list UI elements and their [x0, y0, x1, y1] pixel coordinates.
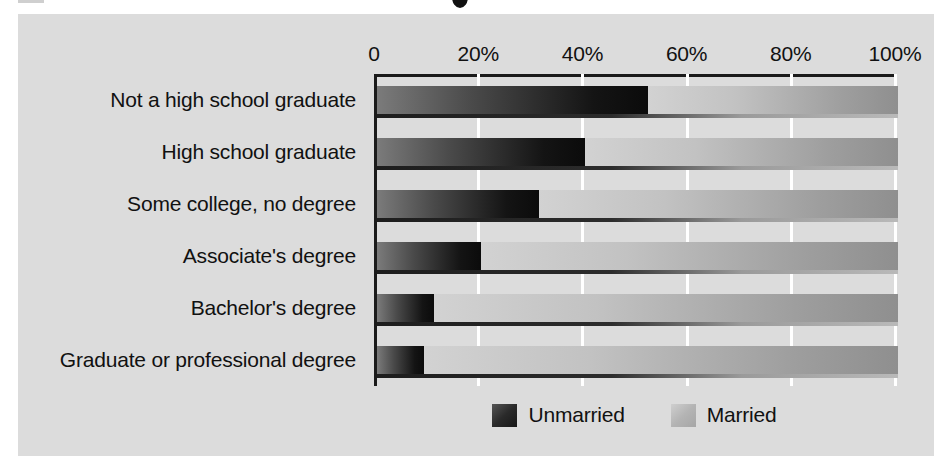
bar-shadow: [377, 218, 898, 222]
x-axis-tick-label: 80%: [770, 42, 811, 66]
bar-segment-married: [648, 86, 898, 114]
title-descender-remnant: [452, 0, 468, 8]
y-axis-category-label: Some college, no degree: [127, 192, 356, 216]
bar-shadow: [377, 374, 898, 378]
bar-segment-married: [585, 138, 898, 166]
x-axis-tick-labels: 020%40%60%80%100%: [374, 42, 895, 68]
y-axis-category-labels: Not a high school graduateHigh school gr…: [20, 74, 366, 386]
chart-figure: 020%40%60%80%100% Not a high school grad…: [0, 0, 952, 475]
bar-shadow: [377, 270, 898, 274]
plot-top-rule: [374, 74, 895, 77]
bar-row: [377, 190, 898, 218]
bar-shadow: [377, 166, 898, 170]
bar-segment-married: [481, 242, 898, 270]
bar-segment-married: [434, 294, 898, 322]
x-axis-tick-label: 40%: [562, 42, 603, 66]
legend-item[interactable]: Married: [671, 403, 777, 427]
legend-swatch-icon: [492, 404, 517, 427]
bar-row: [377, 86, 898, 114]
bar-segment-unmarried: [377, 190, 539, 218]
plot-area: [374, 74, 895, 386]
bar-segment-unmarried: [377, 242, 481, 270]
bar-segment-unmarried: [377, 138, 585, 166]
gridline: [477, 74, 480, 386]
legend-label: Married: [707, 403, 777, 427]
bar-segment-married: [539, 190, 898, 218]
gridline: [790, 74, 793, 386]
x-axis-tick-label: 100%: [869, 42, 922, 66]
bar-segment-unmarried: [377, 86, 648, 114]
bar-segment-unmarried: [377, 294, 434, 322]
legend-item[interactable]: Unmarried: [492, 403, 624, 427]
bar-row: [377, 346, 898, 374]
gridline: [686, 74, 689, 386]
bar-segment-unmarried: [377, 346, 424, 374]
bar-segment-married: [424, 346, 898, 374]
y-axis-category-label: High school graduate: [162, 140, 356, 164]
y-axis-category-label: Associate's degree: [183, 244, 356, 268]
legend-swatch-icon: [671, 404, 696, 427]
bar-row: [377, 294, 898, 322]
bar-row: [377, 242, 898, 270]
y-axis-line: [374, 74, 377, 386]
y-axis-category-label: Graduate or professional degree: [60, 348, 356, 372]
y-axis-category-label: Not a high school graduate: [110, 88, 356, 112]
x-axis-tick-label: 0: [368, 42, 379, 66]
bar-shadow: [377, 322, 898, 326]
gridline: [581, 74, 584, 386]
legend-label: Unmarried: [528, 403, 624, 427]
x-axis-tick-label: 60%: [666, 42, 707, 66]
x-axis-tick-label: 20%: [457, 42, 498, 66]
y-axis-category-label: Bachelor's degree: [191, 296, 356, 320]
bar-row: [377, 138, 898, 166]
title-crop-remnant: [18, 0, 44, 3]
chart-legend: UnmarriedMarried: [374, 398, 895, 432]
bar-shadow: [377, 114, 898, 118]
gridline: [894, 74, 897, 386]
